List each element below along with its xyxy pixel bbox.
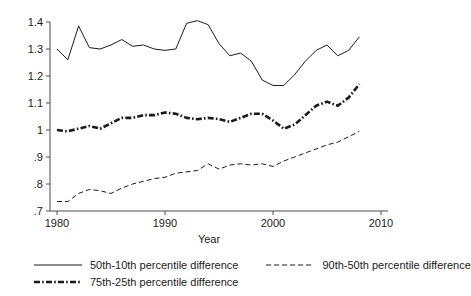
y-tick-label: .7: [34, 205, 43, 217]
legend-entry-75th-25th: 75th-25th percentile difference: [34, 276, 238, 288]
legend-swatch-dashed: [266, 260, 314, 270]
x-tick-label: 2010: [369, 217, 393, 229]
y-tick-label: .8: [34, 178, 43, 190]
x-axis: 1980199020002010: [45, 211, 393, 229]
chart-legend: 50th-10th percentile difference 90th-50t…: [0, 256, 434, 290]
y-tick-label: 1.4: [28, 16, 43, 28]
y-tick-label: 1.2: [28, 70, 43, 82]
series-line: [57, 131, 359, 201]
x-tick-label: 1980: [45, 217, 69, 229]
legend-label-90th-50th: 90th-50th percentile difference: [322, 259, 470, 271]
series-line: [57, 84, 359, 131]
x-tick-label: 2000: [261, 217, 285, 229]
legend-entry-50th-10th: 50th-10th percentile difference: [34, 259, 238, 271]
y-tick-label: 1.3: [28, 43, 43, 55]
y-axis: 1.41.31.21.11.9.8.7: [28, 16, 50, 217]
y-tick-label: .9: [34, 151, 43, 163]
legend-entry-90th-50th: 90th-50th percentile difference: [266, 259, 470, 271]
y-tick-label: 1: [37, 124, 43, 136]
legend-swatch-dashdot: [34, 277, 82, 287]
legend-row-bottom: 75th-25th percentile difference: [0, 273, 434, 290]
legend-label-75th-25th: 75th-25th percentile difference: [90, 276, 238, 288]
series-line: [57, 21, 359, 86]
x-tick-label: 1990: [153, 217, 177, 229]
line-chart-plot: 1.41.31.21.11.9.8.7 1980199020002010 Yea…: [0, 0, 434, 256]
legend-label-50th-10th: 50th-10th percentile difference: [90, 259, 238, 271]
legend-row-top: 50th-10th percentile difference 90th-50t…: [0, 256, 434, 273]
data-series-group: [57, 21, 359, 202]
y-tick-label: 1.1: [28, 97, 43, 109]
legend-swatch-solid: [34, 260, 82, 270]
x-axis-title: Year: [198, 233, 221, 245]
